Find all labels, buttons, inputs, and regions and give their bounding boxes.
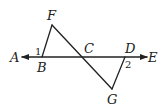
- geometry-diagram: A B C D E F G 1 2: [0, 0, 165, 110]
- point-label-d: D: [124, 41, 136, 56]
- point-label-a: A: [9, 50, 19, 65]
- segment-bf: [42, 25, 52, 57]
- angle-label-2: 2: [125, 59, 131, 70]
- point-label-f: F: [46, 8, 57, 23]
- point-label-b: B: [36, 60, 47, 75]
- segment-gd: [112, 57, 125, 89]
- point-label-c: C: [84, 41, 94, 56]
- angle-label-1: 1: [35, 46, 41, 57]
- point-label-e: E: [147, 50, 158, 65]
- point-label-g: G: [107, 92, 117, 107]
